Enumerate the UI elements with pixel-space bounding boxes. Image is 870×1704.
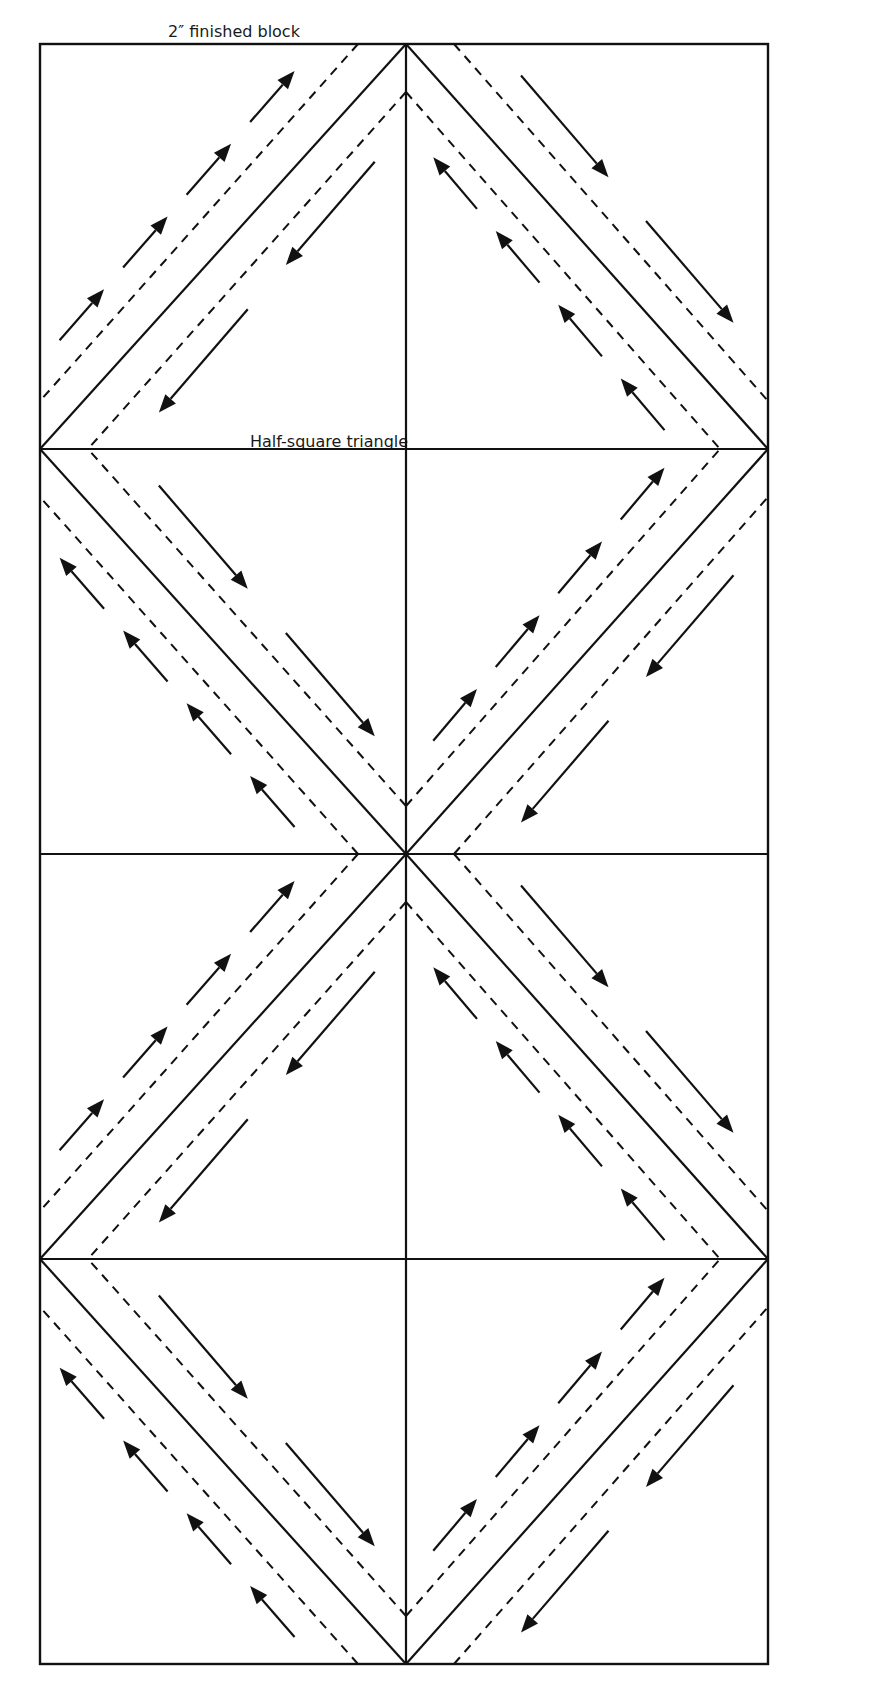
arrow-shaft <box>198 717 231 754</box>
arrow-shaft <box>123 230 156 267</box>
arrow-shaft <box>570 1129 602 1167</box>
arrow-shaft <box>433 703 465 741</box>
arrow-shaft <box>445 171 477 209</box>
sewing-line-inner <box>88 902 406 1259</box>
cut-line-diagonal <box>406 1259 768 1664</box>
arrow-shaft <box>198 1527 231 1564</box>
sewing-line-outer <box>454 44 768 401</box>
arrow-shaft <box>445 981 477 1019</box>
cut-line-diagonal <box>40 449 406 854</box>
cut-line-diagonal <box>40 854 406 1259</box>
arrow-shaft <box>533 721 609 809</box>
arrow-shaft <box>298 972 375 1062</box>
arrow-shaft <box>187 157 220 194</box>
sewing-line-outer <box>454 854 768 1211</box>
cut-line-diagonal <box>406 854 768 1259</box>
sewing-line-outer <box>40 497 358 854</box>
arrow-shaft <box>123 1040 156 1077</box>
sewing-line-inner <box>88 92 406 449</box>
arrow-shaft <box>135 1454 168 1491</box>
sewing-line-outer <box>40 1307 358 1664</box>
cut-line-diagonal <box>40 44 406 449</box>
arrow-shaft <box>135 644 168 681</box>
arrow-shaft <box>632 1202 664 1240</box>
arrow-shaft <box>159 486 236 576</box>
sewing-line-outer <box>454 497 768 854</box>
arrow-shaft <box>507 245 539 283</box>
arrow-shaft <box>646 221 722 309</box>
sewing-line-outer <box>454 1307 768 1664</box>
arrow-shaft <box>250 85 283 122</box>
arrow-shaft <box>171 309 248 399</box>
arrow-shaft <box>521 885 597 973</box>
sewing-line-outer <box>40 854 358 1211</box>
sewing-line-inner <box>406 92 720 449</box>
arrow-shaft <box>621 482 653 520</box>
arrow-shaft <box>570 319 602 357</box>
arrow-shaft <box>496 629 528 667</box>
arrow-shaft <box>298 162 375 252</box>
arrow-shaft <box>496 1439 528 1477</box>
sewing-line-inner <box>406 449 720 806</box>
cut-line-diagonal <box>406 449 768 854</box>
arrow-shaft <box>286 633 363 723</box>
arrow-shaft <box>533 1531 609 1619</box>
cut-line-diagonal <box>40 1259 406 1664</box>
arrow-shaft <box>159 1296 236 1386</box>
arrow-shaft <box>60 303 93 340</box>
arrow-shaft <box>262 790 295 827</box>
arrow-shaft <box>646 1031 722 1119</box>
arrow-shaft <box>286 1443 363 1533</box>
arrow-shaft <box>262 1600 295 1637</box>
arrow-shaft <box>71 571 104 608</box>
arrow-shaft <box>658 575 734 663</box>
arrow-shaft <box>558 1365 590 1403</box>
sewing-line-inner <box>406 1259 720 1616</box>
cut-line-diagonal <box>406 44 768 449</box>
sewing-line-inner <box>406 902 720 1259</box>
arrow-shaft <box>433 1513 465 1551</box>
arrow-shaft <box>558 555 590 593</box>
sewing-line-inner <box>88 449 406 806</box>
sewing-line-outer <box>40 44 358 401</box>
arrow-shaft <box>187 967 220 1004</box>
arrow-shaft <box>71 1381 104 1418</box>
arrow-shaft <box>658 1385 734 1473</box>
arrow-shaft <box>171 1119 248 1209</box>
block-frame <box>40 44 768 1664</box>
quilt-pattern-diagram <box>0 0 870 1704</box>
arrow-shaft <box>521 75 597 163</box>
arrow-shaft <box>60 1113 93 1150</box>
arrow-shaft <box>632 392 664 430</box>
arrow-shaft <box>250 895 283 932</box>
arrow-shaft <box>507 1055 539 1093</box>
arrow-shaft <box>621 1292 653 1330</box>
sewing-line-inner <box>88 1259 406 1616</box>
